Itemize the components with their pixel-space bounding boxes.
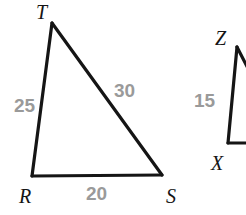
vertex-label-z: Z xyxy=(215,28,226,48)
segment-zy-cropped xyxy=(237,47,246,76)
vertex-label-s: S xyxy=(166,186,176,206)
vertex-label-t: T xyxy=(36,2,47,22)
side-length-ts: 30 xyxy=(114,81,135,100)
side-length-xz: 15 xyxy=(194,91,215,110)
side-length-rs: 20 xyxy=(86,184,107,203)
side-length-rt: 25 xyxy=(14,96,35,115)
triangle-xyz-outline xyxy=(228,47,246,143)
vertex-label-r: R xyxy=(19,186,31,206)
triangle-rst-outline xyxy=(32,23,162,176)
segment-xz xyxy=(228,47,237,143)
vertex-label-x: X xyxy=(211,153,223,173)
segment-ts xyxy=(52,23,162,175)
segment-rs xyxy=(32,175,162,176)
geometry-figure: T R S Z X 25 30 20 15 xyxy=(0,0,246,215)
